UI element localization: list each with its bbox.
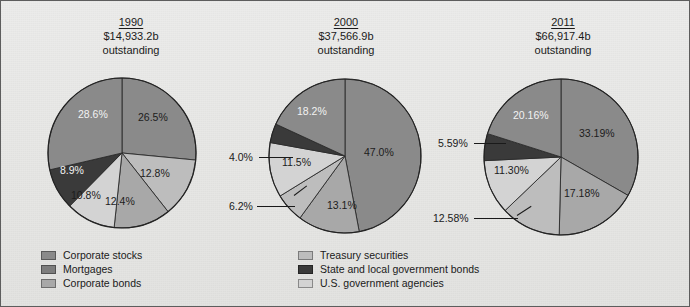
slice-value-1990-treasury: 12.8% — [140, 167, 170, 179]
callout-leader-2000-state-local — [259, 157, 293, 158]
panel-header-1990: 1990 $14,933.2b outstanding — [61, 15, 201, 57]
slice-value-2011-mortgages: 20.16% — [513, 109, 549, 121]
legend-label-mortgages: Mortgages — [63, 264, 113, 275]
legend-item-corporate-stocks: Corporate stocks — [41, 250, 142, 261]
callout-value-2000-state-local: 4.0% — [229, 151, 253, 163]
figure-container: 1990 $14,933.2b outstanding 2000 $37,566… — [0, 0, 690, 307]
callout-value-2000-treasury: 6.2% — [229, 200, 253, 212]
panel-amount-2000: $37,566.9b — [276, 29, 416, 43]
panel-outstanding-2000: outstanding — [276, 43, 416, 57]
slice-value-2000-mortgages: 18.2% — [297, 105, 327, 117]
callout-value-2011-state-local: 5.59% — [438, 137, 468, 149]
slice-value-1990-corporate-bonds: 12.4% — [105, 195, 135, 207]
legend-swatch-state-local-bonds — [298, 265, 313, 274]
pie-2011-svg — [483, 78, 640, 235]
panel-outstanding-2011: outstanding — [493, 43, 633, 57]
pie-slice — [48, 78, 122, 170]
slice-value-2011-corporate-bonds: 17.18% — [564, 187, 600, 199]
legend-label-treasury-securities: Treasury securities — [320, 250, 408, 261]
panel-header-2000: 2000 $37,566.9b outstanding — [276, 15, 416, 57]
legend-item-mortgages: Mortgages — [41, 264, 142, 275]
panel-year-2000: 2000 — [276, 15, 416, 29]
pie-chart-2011 — [483, 78, 640, 235]
callout-leader-2011-state-local — [474, 143, 506, 144]
panel-year-2011: 2011 — [493, 15, 633, 29]
panel-outstanding-1990: outstanding — [61, 43, 201, 57]
legend-item-state-local-bonds: State and local government bonds — [298, 264, 479, 275]
legend-swatch-us-government-agencies — [298, 279, 313, 288]
legend-item-us-government-agencies: U.S. government agencies — [298, 278, 479, 289]
slice-value-1990-corporate-stocks: 26.5% — [138, 111, 168, 123]
legend-swatch-corporate-stocks — [41, 251, 56, 260]
legend-swatch-mortgages — [41, 265, 56, 274]
legend-swatch-corporate-bonds — [41, 279, 56, 288]
slice-value-2011-us-gov-agencies: 11.30% — [494, 164, 529, 176]
slice-value-1990-us-gov-agencies: 10.8% — [71, 189, 101, 201]
panel-amount-1990: $14,933.2b — [61, 29, 201, 43]
legend-right-column: Treasury securities State and local gove… — [298, 250, 479, 289]
legend-label-us-government-agencies: U.S. government agencies — [320, 278, 444, 289]
legend-label-corporate-bonds: Corporate bonds — [63, 278, 141, 289]
legend-item-corporate-bonds: Corporate bonds — [41, 278, 142, 289]
slice-value-2011-corporate-stocks: 33.19% — [579, 127, 615, 139]
panel-year-1990: 1990 — [61, 15, 201, 29]
slice-value-1990-state-local: 8.9% — [60, 164, 84, 176]
slice-value-1990-mortgages: 28.6% — [78, 108, 108, 120]
legend-swatch-treasury-securities — [298, 251, 313, 260]
callout-leader-2011-treasury — [474, 218, 518, 219]
legend-label-corporate-stocks: Corporate stocks — [63, 250, 142, 261]
slice-value-2000-corporate-stocks: 47.0% — [364, 146, 394, 158]
panel-amount-2011: $66,917.4b — [493, 29, 633, 43]
legend-label-state-local-bonds: State and local government bonds — [320, 264, 479, 275]
legend-left-column: Corporate stocks Mortgages Corporate bon… — [41, 250, 142, 289]
callout-leader-2000-treasury — [257, 206, 295, 207]
legend-item-treasury-securities: Treasury securities — [298, 250, 479, 261]
panel-header-2011: 2011 $66,917.4b outstanding — [493, 15, 633, 57]
callout-value-2011-treasury: 12.58% — [433, 212, 469, 224]
slice-value-2000-corporate-bonds: 13.1% — [327, 199, 357, 211]
